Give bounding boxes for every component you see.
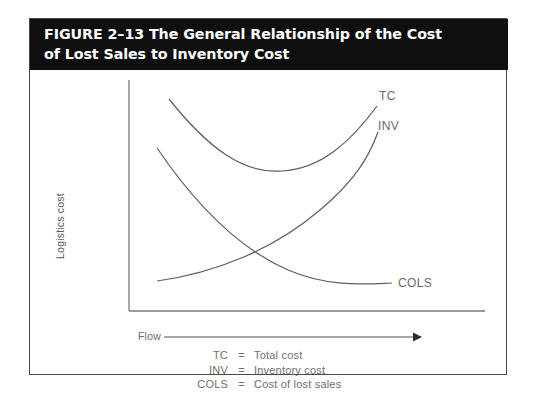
curve-label-tc: TC	[379, 89, 396, 103]
legend-description: Inventory cost	[248, 363, 325, 378]
chart-legend: TC = Total cost INV = Inventory cost COL…	[180, 348, 341, 392]
figure-title: FIGURE 2–13 The General Relationship of …	[44, 24, 496, 64]
curve-label-cols: COLS	[398, 276, 432, 290]
legend-item: TC = Total cost	[180, 348, 341, 363]
legend-equals: =	[235, 363, 248, 378]
figure-title-bar: FIGURE 2–13 The General Relationship of …	[30, 19, 508, 70]
legend-description: Cost of lost sales	[248, 377, 341, 392]
legend-abbr: COLS	[180, 377, 235, 392]
legend-item: COLS = Cost of lost sales	[180, 377, 341, 392]
curve-inv	[157, 132, 378, 281]
curve-tc	[169, 99, 377, 171]
curve-cols	[157, 148, 392, 284]
legend-item: INV = Inventory cost	[180, 363, 341, 378]
legend-equals: =	[235, 348, 248, 363]
legend-abbr: TC	[180, 348, 235, 363]
figure-frame: FIGURE 2–13 The General Relationship of …	[29, 18, 507, 375]
x-axis-title: Flow	[138, 330, 161, 342]
y-axis-title: Logistics cost	[54, 171, 66, 281]
legend-equals: =	[235, 377, 248, 392]
curve-label-inv: INV	[378, 119, 399, 133]
legend-abbr: INV	[180, 363, 235, 378]
chart-svg	[30, 70, 508, 374]
chart-plot-area: Logistics cost TC INV COLS Flow TC = Tot…	[30, 70, 508, 374]
flow-arrow-head	[413, 333, 422, 342]
legend-description: Total cost	[248, 348, 302, 363]
